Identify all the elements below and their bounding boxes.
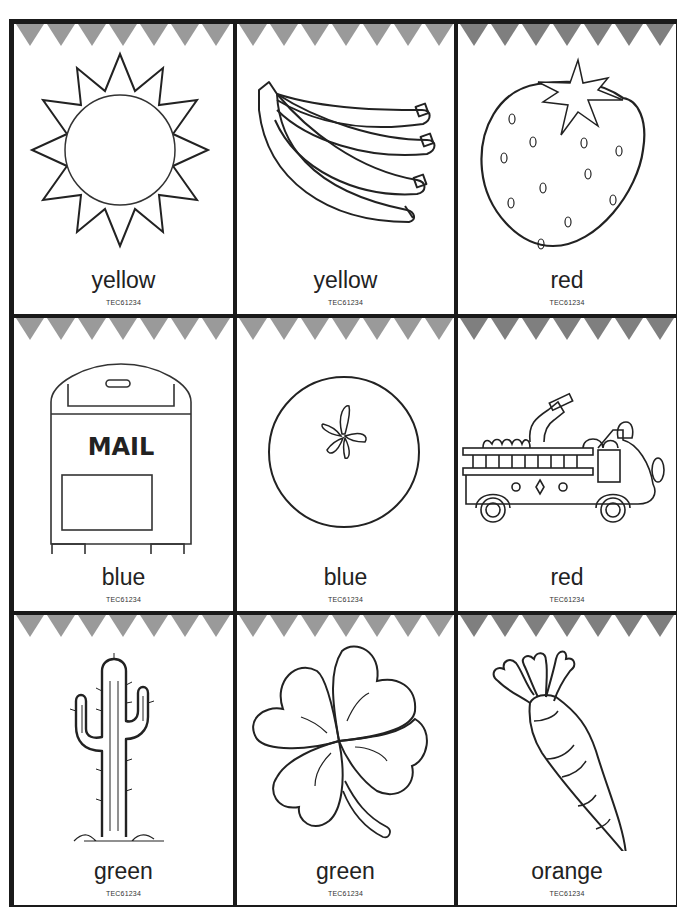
card-label: blue [237, 566, 454, 589]
card-code: TEC61234 [458, 596, 676, 603]
card-label: yellow [237, 269, 454, 292]
card-code: TEC61234 [458, 299, 676, 306]
mailbox-text: MAIL [88, 433, 155, 461]
pennant-banner [458, 615, 676, 643]
card-code: TEC61234 [14, 596, 233, 603]
pennant-banner [237, 615, 454, 643]
clover-icon [237, 641, 454, 851]
card-label: orange [458, 860, 676, 883]
pennant-banner [14, 318, 233, 346]
card-sun: yellow TEC61234 [14, 24, 233, 314]
card-code: TEC61234 [458, 890, 676, 897]
card-blueberry: blue TEC61234 [237, 318, 454, 611]
card-label: red [458, 566, 676, 589]
cactus-icon [14, 641, 233, 851]
pennant-banner [237, 318, 454, 346]
strawberry-icon [458, 50, 676, 260]
mailbox-icon: MAIL [14, 344, 233, 554]
pennant-banner [237, 24, 454, 52]
card-code: TEC61234 [14, 299, 233, 306]
card-fire-truck: red TEC61234 [458, 318, 676, 611]
card-clover: green TEC61234 [237, 615, 454, 905]
card-label: blue [14, 566, 233, 589]
pennant-banner [14, 615, 233, 643]
card-strawberry: red TEC61234 [458, 24, 676, 314]
card-label: yellow [14, 269, 233, 292]
card-code: TEC61234 [237, 299, 454, 306]
card-mailbox: MAIL blue TEC61234 [14, 318, 233, 611]
pennant-banner [458, 24, 676, 52]
card-cactus: green TEC61234 [14, 615, 233, 905]
card-label: red [458, 269, 676, 292]
fire-truck-icon [458, 344, 676, 554]
sun-icon [14, 50, 233, 260]
card-bananas: yellow TEC61234 [237, 24, 454, 314]
card-code: TEC61234 [237, 890, 454, 897]
pennant-banner [458, 318, 676, 346]
card-label: green [14, 860, 233, 883]
blueberry-icon [237, 344, 454, 554]
pennant-banner [14, 24, 233, 52]
card-code: TEC61234 [237, 596, 454, 603]
card-label: green [237, 860, 454, 883]
card-carrot: orange TEC61234 [458, 615, 676, 905]
color-word-cards-sheet: yellow TEC61234 yellow TEC61234 r [9, 19, 677, 907]
card-code: TEC61234 [14, 890, 233, 897]
bananas-icon [237, 50, 454, 260]
carrot-icon [458, 641, 676, 851]
